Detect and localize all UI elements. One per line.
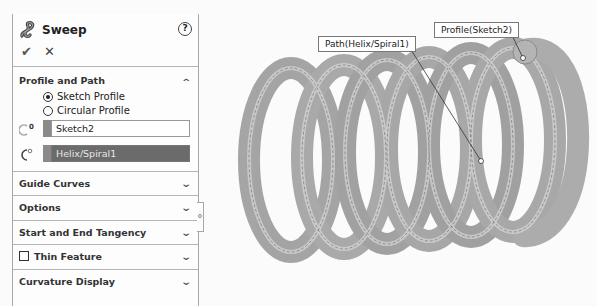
path-icon xyxy=(19,147,37,161)
section-guide-curves[interactable]: Guide Curves ⌄ xyxy=(19,172,192,194)
chevron-down-icon[interactable]: ⌄ xyxy=(180,178,192,189)
chevron-down-icon[interactable]: ⌄ xyxy=(180,227,192,238)
section-options[interactable]: Options ⌄ xyxy=(19,196,192,218)
profile-end-face[interactable] xyxy=(513,40,537,64)
chevron-down-icon[interactable]: ⌄ xyxy=(180,251,192,262)
profile-icon: 0 xyxy=(19,122,37,136)
path-selection-row: Helix/Spiral1 xyxy=(19,145,192,162)
profile-color-swatch xyxy=(43,120,51,137)
chevron-down-icon[interactable]: ⌄ xyxy=(180,276,192,287)
chevron-down-icon[interactable]: ⌄ xyxy=(180,202,192,213)
svg-text:0: 0 xyxy=(29,123,34,131)
section-label: Profile and Path xyxy=(19,75,105,86)
flyout-handle-icon xyxy=(198,214,202,218)
graphics-area[interactable]: Path(Helix/Spiral1) Profile(Sketch2) xyxy=(205,0,597,306)
panel-header: Sweep ? xyxy=(19,20,192,40)
flyout-tab[interactable] xyxy=(197,202,204,232)
action-buttons: ✔ ✕ xyxy=(21,44,55,59)
section-label: Thin Feature xyxy=(34,251,102,262)
radio-label: Sketch Profile xyxy=(57,91,125,102)
chevron-up-icon[interactable]: ⌃ xyxy=(180,77,191,88)
path-anchor-point[interactable] xyxy=(479,159,484,164)
section-label: Start and End Tangency xyxy=(19,227,146,238)
profile-anchor-point[interactable] xyxy=(521,56,526,61)
sweep-icon xyxy=(19,21,37,39)
radio-sketch-profile[interactable]: Sketch Profile xyxy=(43,91,125,102)
path-callout[interactable]: Path(Helix/Spiral1) xyxy=(318,36,416,52)
profile-selection-box[interactable]: Sketch2 xyxy=(51,120,190,137)
property-manager-panel: Sweep ? ✔ ✕ Profile and Path ⌃ Sketch Pr… xyxy=(12,14,199,306)
radio-button[interactable] xyxy=(43,106,53,116)
feature-title: Sweep xyxy=(42,23,87,37)
section-start-end-tangency[interactable]: Start and End Tangency ⌄ xyxy=(19,221,192,243)
profile-callout[interactable]: Profile(Sketch2) xyxy=(434,22,519,38)
x-icon[interactable]: ✕ xyxy=(44,44,55,59)
section-label: Guide Curves xyxy=(19,178,90,189)
radio-button-selected[interactable] xyxy=(43,92,53,102)
path-color-swatch xyxy=(43,145,51,162)
section-profile-and-path[interactable]: Profile and Path ⌃ xyxy=(19,69,192,91)
section-thin-feature[interactable]: Thin Feature ⌄ xyxy=(19,245,192,267)
question-circle-icon[interactable]: ? xyxy=(178,22,192,36)
path-selection-box[interactable]: Helix/Spiral1 xyxy=(51,145,190,162)
radio-label: Circular Profile xyxy=(57,105,130,116)
divider xyxy=(13,66,198,67)
radio-circular-profile[interactable]: Circular Profile xyxy=(43,105,130,116)
checkmark-icon[interactable]: ✔ xyxy=(21,44,32,59)
section-curvature-display[interactable]: Curvature Display ⌄ xyxy=(19,270,192,292)
thin-feature-checkbox[interactable] xyxy=(19,251,29,261)
section-label: Curvature Display xyxy=(19,276,115,287)
section-label: Options xyxy=(19,202,61,213)
profile-selection-row: 0 Sketch2 xyxy=(19,120,192,137)
